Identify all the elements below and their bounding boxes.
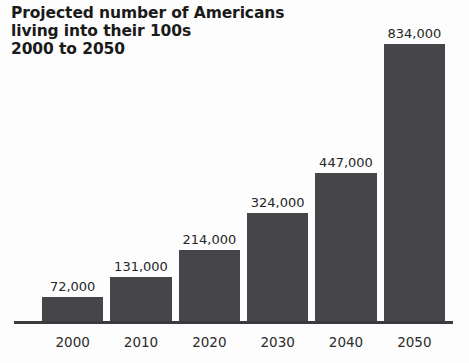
x-axis-line bbox=[14, 321, 453, 324]
value-label-2010: 131,000 bbox=[98, 259, 183, 274]
bar-2010 bbox=[110, 277, 171, 321]
bar-2040 bbox=[315, 173, 376, 321]
bar-2050 bbox=[384, 44, 445, 321]
value-label-2000: 72,000 bbox=[30, 279, 115, 294]
value-label-2030: 324,000 bbox=[235, 195, 320, 210]
plot-area: 72,000131,000214,000324,000447,000834,00… bbox=[0, 0, 469, 363]
value-label-2040: 447,000 bbox=[303, 155, 388, 170]
bar-2000 bbox=[42, 297, 103, 321]
tick-label-2050: 2050 bbox=[374, 334, 455, 350]
bar-2020 bbox=[179, 250, 240, 321]
bar-2030 bbox=[247, 213, 308, 321]
chart-container: Projected number of Americans living int… bbox=[0, 0, 469, 363]
value-label-2020: 214,000 bbox=[167, 232, 252, 247]
value-label-2050: 834,000 bbox=[372, 26, 457, 41]
